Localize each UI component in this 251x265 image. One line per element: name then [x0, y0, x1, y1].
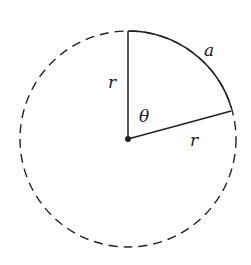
- label-arc: a: [204, 40, 214, 60]
- arc-a: [128, 31, 231, 108]
- label-radius-slanted: r: [190, 130, 199, 150]
- label-angle: θ: [139, 106, 149, 126]
- label-radius-vertical: r: [108, 72, 117, 92]
- sector-diagram: r θ r a: [0, 0, 251, 265]
- center-point: [125, 136, 131, 142]
